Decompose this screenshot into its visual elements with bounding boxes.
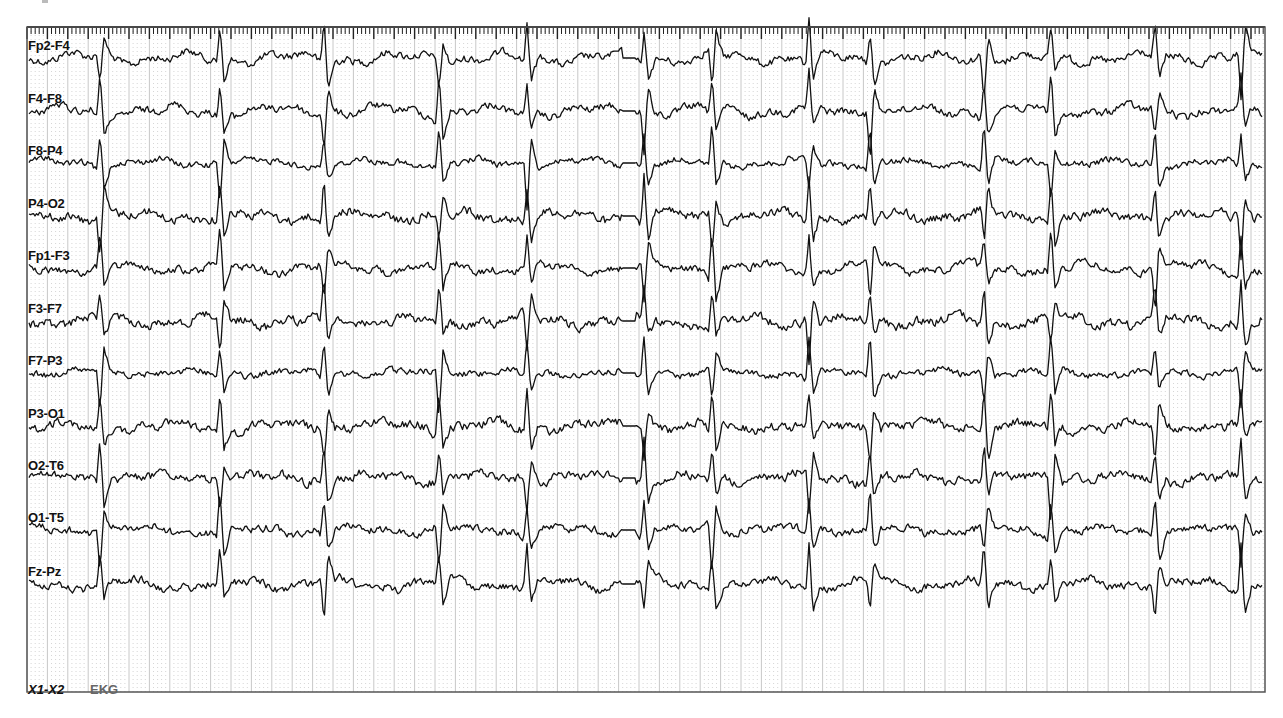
- ekg-channel-label: EKG: [90, 682, 118, 697]
- eeg-trace-f4-f8: [29, 68, 1262, 155]
- channel-label: P4-O2: [28, 197, 65, 210]
- ekg-reference-label: X1-X2: [28, 682, 64, 697]
- channel-label: O1-T5: [28, 511, 64, 524]
- channel-label: Fp1-F3: [28, 249, 69, 262]
- eeg-trace-o2-t6: [29, 437, 1262, 519]
- corner-marker: [42, 0, 48, 3]
- eeg-trace-f7-p3: [29, 337, 1262, 413]
- eeg-trace-p3-o1: [29, 389, 1262, 461]
- eeg-traces: [29, 18, 1262, 682]
- channel-label: Fp2-F4: [28, 39, 69, 52]
- eeg-trace-fz-pz: [29, 543, 1262, 615]
- eeg-trace-o1-t5: [29, 494, 1262, 568]
- eeg-trace-fp2-f4: [29, 18, 1262, 100]
- channel-label: F7-P3: [28, 354, 62, 367]
- time-ruler[interactable]: [27, 27, 1265, 39]
- channel-label: Fz-Pz: [28, 565, 61, 578]
- eeg-trace-p4-o2: [29, 173, 1262, 259]
- channel-label: F8-P4: [28, 144, 62, 157]
- channel-label: F3-F7: [28, 302, 62, 315]
- eeg-plot-area[interactable]: [0, 0, 1283, 718]
- eeg-viewer: Fp2-F4F4-F8F8-P4P4-O2Fp1-F3F3-F7F7-P3P3-…: [0, 0, 1283, 718]
- eeg-trace-fp1-f3: [29, 229, 1262, 305]
- channel-label: P3-O1: [28, 407, 65, 420]
- channel-label: F4-F8: [28, 92, 62, 105]
- channel-label: O2-T6: [28, 459, 64, 472]
